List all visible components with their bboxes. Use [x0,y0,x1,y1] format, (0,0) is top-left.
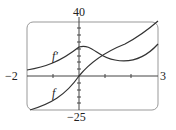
f-curve-label: f [52,87,55,99]
x-min-label: −2 [5,70,18,82]
y-max-label: 40 [73,6,85,18]
x-max-label: 3 [160,70,166,82]
plot-frame [27,22,158,110]
plot-area [0,0,176,130]
series-f [30,21,158,110]
y-min-label: −25 [67,111,86,123]
series-fprime [27,44,158,70]
fprime-curve-label: f′ [52,50,58,62]
